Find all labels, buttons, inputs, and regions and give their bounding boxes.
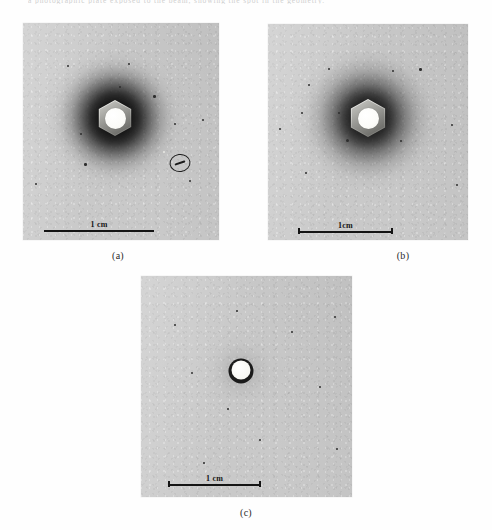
emulsion-speck bbox=[456, 184, 458, 186]
emulsion-speck bbox=[259, 439, 261, 441]
scale-bar-cap-left-c bbox=[168, 481, 170, 487]
emulsion-speck bbox=[80, 133, 82, 135]
nut-hex-rim-a bbox=[98, 101, 132, 135]
track-mark-a bbox=[175, 161, 186, 166]
emulsion-speck bbox=[338, 112, 340, 114]
plate-vignette-c bbox=[141, 276, 352, 497]
figure-panel-a: 1 cm bbox=[23, 23, 219, 240]
emulsion-speck bbox=[191, 372, 193, 374]
emulsion-speck bbox=[35, 183, 37, 185]
emulsion-speck bbox=[392, 70, 394, 72]
emulsion-speck bbox=[279, 128, 281, 130]
nut-hex-outer-b bbox=[349, 99, 387, 137]
plate-grain-texture-c bbox=[141, 276, 352, 497]
emulsion-speck bbox=[174, 123, 176, 125]
scale-bar-cap-right-b bbox=[391, 228, 393, 234]
nut-bright-core-a bbox=[105, 108, 126, 129]
emulsion-speck bbox=[84, 163, 87, 166]
emulsion-speck bbox=[128, 63, 130, 65]
emulsion-speck bbox=[328, 68, 330, 70]
nut-hex-outer-a bbox=[97, 100, 133, 136]
emulsion-speck bbox=[308, 84, 310, 86]
emulsion-speck bbox=[419, 68, 422, 71]
scale-bar-b: 1cm bbox=[298, 221, 393, 233]
center-disc-c bbox=[229, 359, 254, 384]
exposure-halo-b bbox=[285, 38, 451, 198]
scale-bar-cap-right-c bbox=[259, 481, 261, 487]
scale-bar-line-c bbox=[168, 484, 261, 486]
emulsion-speck bbox=[451, 124, 453, 126]
emulsion-speck bbox=[334, 316, 336, 318]
center-hexagonal-nut-b bbox=[349, 99, 387, 137]
emulsion-speck bbox=[346, 139, 349, 142]
panel-caption-a: (a) bbox=[83, 250, 153, 261]
plate-vignette-b bbox=[268, 24, 468, 240]
emulsion-speck bbox=[236, 310, 238, 312]
emulsion-speck bbox=[203, 462, 205, 464]
plate-vignette-a bbox=[23, 23, 219, 240]
scale-bar-label-a: 1 cm bbox=[44, 221, 154, 229]
figure-panel-b: 1cm bbox=[268, 24, 468, 240]
emulsion-speck bbox=[119, 86, 121, 88]
circled-track-annotation-a bbox=[168, 153, 191, 174]
emulsion-speck bbox=[291, 331, 293, 333]
emulsion-speck bbox=[202, 119, 204, 121]
page-running-text: a photographic plate exposed to the beam… bbox=[28, 0, 468, 4]
nut-bright-core-b bbox=[358, 108, 379, 129]
scale-bar-line-a bbox=[44, 230, 154, 232]
emulsion-speck bbox=[305, 172, 307, 174]
emulsion-speck bbox=[153, 95, 156, 98]
figure-panel-c: 1 cm bbox=[141, 276, 352, 497]
emulsion-speck bbox=[189, 180, 191, 182]
emulsion-speck bbox=[336, 448, 338, 450]
center-hexagonal-nut-a bbox=[97, 100, 133, 136]
panel-caption-b: (b) bbox=[368, 250, 438, 261]
plate-grain-texture-a bbox=[23, 23, 219, 240]
plate-grain-texture-b bbox=[268, 24, 468, 240]
scale-bar-c: 1 cm bbox=[168, 474, 261, 486]
scale-bar-line-b bbox=[298, 231, 393, 233]
panel-caption-c: (c) bbox=[211, 507, 281, 518]
scale-bar-a: 1 cm bbox=[44, 220, 154, 232]
scale-bar-label-c: 1 cm bbox=[168, 475, 261, 483]
exposure-halo-c bbox=[198, 330, 284, 412]
scale-bar-label-b: 1cm bbox=[298, 222, 393, 230]
emulsion-speck bbox=[319, 386, 321, 388]
emulsion-speck bbox=[174, 324, 176, 326]
emulsion-speck bbox=[227, 408, 229, 410]
emulsion-speck bbox=[163, 151, 165, 153]
emulsion-speck bbox=[301, 112, 303, 114]
nut-hex-rim-b bbox=[350, 100, 386, 136]
emulsion-speck bbox=[400, 140, 402, 142]
exposure-halo-a bbox=[39, 44, 191, 192]
scale-bar-cap-left-b bbox=[298, 228, 300, 234]
disc-bright-core-c bbox=[231, 360, 250, 379]
emulsion-speck bbox=[67, 65, 69, 67]
